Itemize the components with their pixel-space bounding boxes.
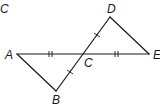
vertex-label-c: C bbox=[84, 56, 93, 70]
vertex-label-e: E bbox=[153, 48, 160, 62]
tick-mark-bc bbox=[67, 70, 73, 74]
vertex-label-a: A bbox=[4, 48, 13, 62]
segment-ab bbox=[17, 54, 56, 91]
tick-mark-cd bbox=[94, 33, 100, 37]
vertex-label-b: B bbox=[52, 93, 60, 106]
triangle-diagram: C A B C D E bbox=[0, 0, 160, 106]
vertex-label-d: D bbox=[107, 2, 116, 16]
segment-de bbox=[110, 17, 149, 54]
figure-label: C bbox=[0, 2, 9, 16]
